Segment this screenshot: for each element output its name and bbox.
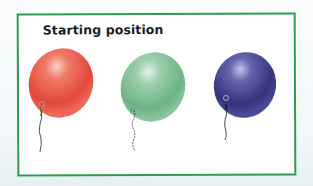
balloon-string	[225, 108, 227, 140]
balloon-string	[132, 110, 135, 151]
green-balloon	[111, 43, 195, 151]
blue-balloon	[205, 44, 284, 140]
balloons-illustration	[0, 0, 313, 186]
red-balloon	[19, 39, 103, 152]
balloon-string	[39, 110, 42, 152]
